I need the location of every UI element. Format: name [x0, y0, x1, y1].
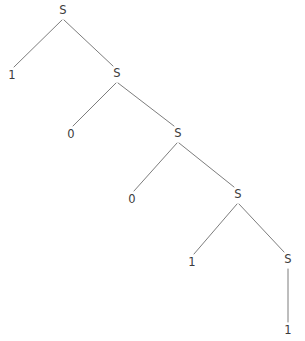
- tree-edges-layer: [0, 0, 305, 341]
- tree-node-t3: 0: [128, 194, 136, 206]
- tree-node-s3: S: [174, 128, 182, 140]
- tree-edge-s2-s3: [118, 83, 174, 126]
- tree-edge-s2-t2: [73, 83, 116, 126]
- tree-node-s1: S: [59, 5, 67, 17]
- tree-node-s2: S: [113, 68, 121, 80]
- tree-edge-s1-t1: [14, 20, 62, 67]
- tree-node-t1: 1: [8, 70, 16, 82]
- tree-edge-s3-t3: [134, 143, 177, 191]
- tree-edge-s4-t4: [194, 204, 237, 254]
- tree-edge-s3-s4: [179, 143, 234, 187]
- tree-node-t5: 1: [284, 325, 292, 337]
- tree-node-s4: S: [234, 189, 242, 201]
- tree-node-t2: 0: [67, 129, 75, 141]
- tree-edge-s4-s5: [239, 204, 284, 252]
- tree-node-t4: 1: [188, 257, 196, 269]
- derivation-tree-figure: S1S0S0S1S1: [0, 0, 305, 341]
- tree-node-s5: S: [284, 254, 292, 266]
- tree-edge-s1-s2: [64, 20, 113, 66]
